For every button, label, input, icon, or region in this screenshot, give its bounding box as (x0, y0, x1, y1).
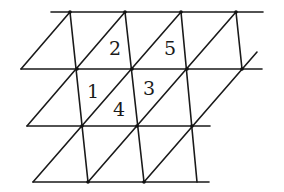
lattice-vertex (142, 180, 146, 184)
cell-label-1: 1 (87, 82, 99, 101)
lattice-vertex (80, 124, 84, 128)
cell-label-3: 3 (143, 79, 155, 98)
diagonal-line (21, 12, 70, 69)
vertical-line (181, 12, 197, 182)
diagonal-line (144, 52, 257, 182)
cell-label-2: 2 (109, 39, 121, 58)
lattice-vertex (75, 67, 79, 71)
lattice-vertex (190, 124, 194, 128)
cell-label-4: 4 (113, 100, 125, 119)
lattice-vertex (135, 124, 139, 128)
cell-label-5: 5 (164, 39, 176, 58)
lattice-vertex (130, 67, 134, 71)
lattice-vertex (68, 10, 72, 14)
lattice-diagram: 2 5 1 3 4 (0, 0, 284, 192)
lattice-vertex (240, 67, 244, 71)
lattice-vertex (123, 10, 127, 14)
lattice-vertex (185, 67, 189, 71)
diagonal-line (33, 12, 181, 182)
lattice-vertex (234, 10, 238, 14)
vertical-line (125, 12, 144, 182)
vertical-line (70, 12, 88, 182)
vertical-line (236, 12, 242, 69)
lattice-vertex (179, 10, 183, 14)
lattice-vertex (86, 180, 90, 184)
